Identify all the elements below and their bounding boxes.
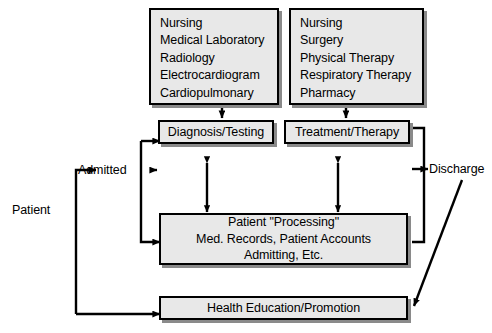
diagnostic-service-item: Medical Laboratory — [160, 32, 277, 49]
therapeutic-service-item: Respiratory Therapy — [300, 67, 422, 84]
label-discharge: Discharge — [429, 162, 484, 176]
box-treatment-therapy[interactable]: Treatment/Therapy — [284, 120, 410, 144]
diagnostic-service-item: Electrocardiogram — [160, 67, 277, 84]
diagnostic-service-item: Radiology — [160, 50, 277, 67]
box-diagnostic-services[interactable]: Nursing Medical Laboratory Radiology Ele… — [149, 8, 279, 105]
processing-line: Med. Records, Patient Accounts — [196, 231, 371, 248]
box-diagnosis-testing-label: Diagnosis/Testing — [168, 124, 264, 141]
box-health-education-promotion[interactable]: Health Education/Promotion — [159, 296, 408, 320]
label-patient: Patient — [12, 203, 50, 217]
box-therapeutic-services[interactable]: Nursing Surgery Physical Therapy Respira… — [289, 8, 424, 105]
box-health-education-label: Health Education/Promotion — [207, 300, 360, 317]
therapeutic-service-item: Physical Therapy — [300, 50, 422, 67]
connector-left-feedback-loop — [141, 141, 160, 242]
connector-patient-admitted — [76, 170, 96, 314]
therapeutic-service-item: Pharmacy — [300, 85, 422, 102]
box-diagnosis-testing[interactable]: Diagnosis/Testing — [158, 120, 274, 144]
therapeutic-service-item: Surgery — [300, 32, 422, 49]
label-admitted: Admitted — [78, 163, 127, 177]
box-treatment-therapy-label: Treatment/Therapy — [295, 124, 399, 141]
box-patient-processing[interactable]: Patient "Processing" Med. Records, Patie… — [159, 213, 408, 265]
box-patient-processing-text: Patient "Processing" Med. Records, Patie… — [196, 214, 371, 264]
diagram-canvas: Nursing Medical Laboratory Radiology Ele… — [0, 0, 492, 333]
therapeutic-service-item: Nursing — [300, 15, 422, 32]
processing-line: Admitting, Etc. — [196, 247, 371, 264]
diagnostic-service-item: Cardiopulmonary — [160, 85, 277, 102]
diagnostic-service-item: Nursing — [160, 15, 277, 32]
processing-line: Patient "Processing" — [196, 214, 371, 231]
